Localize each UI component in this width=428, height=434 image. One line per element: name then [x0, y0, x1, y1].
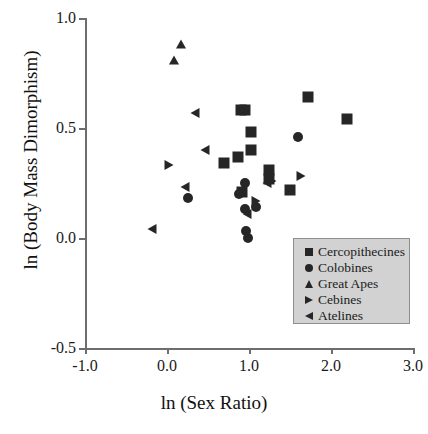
data-point-square: [245, 127, 256, 138]
legend-item-label: Cebines: [318, 292, 362, 308]
x-tick-mark: [85, 348, 87, 354]
data-point-square: [239, 105, 250, 116]
legend-key-glyph: [305, 312, 313, 320]
y-tick-label: -0.5: [30, 339, 76, 357]
data-point-triangle-right: [164, 160, 173, 170]
data-point-triangle-up: [169, 55, 179, 64]
x-tick-mark: [167, 348, 169, 354]
x-tick-mark: [331, 348, 333, 354]
data-point-triangle-left: [242, 209, 251, 219]
triangle-right-icon: [302, 296, 316, 304]
legend-key-glyph: [305, 248, 313, 256]
x-tick-label: 3.0: [383, 357, 428, 375]
data-point-circle: [234, 189, 244, 199]
data-point-triangle-right: [252, 196, 261, 206]
legend: CercopithecinesColobinesGreat ApesCebine…: [293, 238, 410, 324]
y-axis-line: [85, 18, 87, 348]
scatter-plot-figure: 1.00.50.0-0.5 -1.00.01.02.03.0 ln (Body …: [0, 0, 428, 434]
x-tick-label: 1.0: [219, 357, 279, 375]
triangle-left-icon: [302, 312, 316, 320]
y-tick-mark: [79, 18, 85, 20]
legend-item-label: Great Apes: [318, 276, 378, 292]
legend-key-glyph: [305, 280, 313, 288]
x-tick-label: -1.0: [55, 357, 115, 375]
data-point-square: [218, 158, 229, 169]
x-axis-title: ln (Sex Ratio): [0, 392, 428, 414]
data-point-triangle-left: [181, 182, 190, 192]
y-tick-mark: [79, 128, 85, 130]
x-tick-label: 2.0: [301, 357, 361, 375]
legend-item-label: Atelines: [318, 308, 363, 324]
triangle-up-icon: [302, 280, 316, 288]
data-point-square: [245, 145, 256, 156]
data-point-triangle-left: [263, 178, 272, 188]
data-point-triangle-right: [297, 171, 306, 181]
data-point-square: [342, 114, 353, 125]
data-point-circle: [293, 132, 303, 142]
legend-item-atelines: Atelines: [302, 308, 409, 323]
data-point-square: [285, 184, 296, 195]
legend-item-label: Cercopithecines: [318, 244, 405, 260]
data-point-triangle-up: [176, 40, 186, 49]
data-point-triangle-left: [200, 145, 209, 155]
x-tick-label: 0.0: [137, 357, 197, 375]
legend-item-cercopithecines: Cercopithecines: [302, 244, 409, 259]
data-point-circle: [240, 178, 250, 188]
y-axis-title: ln (Body Mass Dimorphism): [20, 0, 42, 330]
legend-key-glyph: [305, 264, 313, 272]
data-point-triangle-left: [190, 108, 199, 118]
data-point-square: [303, 92, 314, 103]
legend-item-label: Colobines: [318, 260, 373, 276]
data-point-triangle-left: [148, 224, 157, 234]
legend-key-glyph: [305, 296, 313, 304]
square-icon: [302, 248, 316, 256]
legend-item-great-apes: Great Apes: [302, 276, 409, 291]
data-point-circle: [183, 193, 193, 203]
y-tick-mark: [79, 238, 85, 240]
legend-item-colobines: Colobines: [302, 260, 409, 275]
circle-icon: [302, 264, 316, 272]
x-tick-mark: [249, 348, 251, 354]
x-tick-mark: [413, 348, 415, 354]
data-point-square: [233, 151, 244, 162]
data-point-circle: [243, 233, 253, 243]
legend-item-cebines: Cebines: [302, 292, 409, 307]
